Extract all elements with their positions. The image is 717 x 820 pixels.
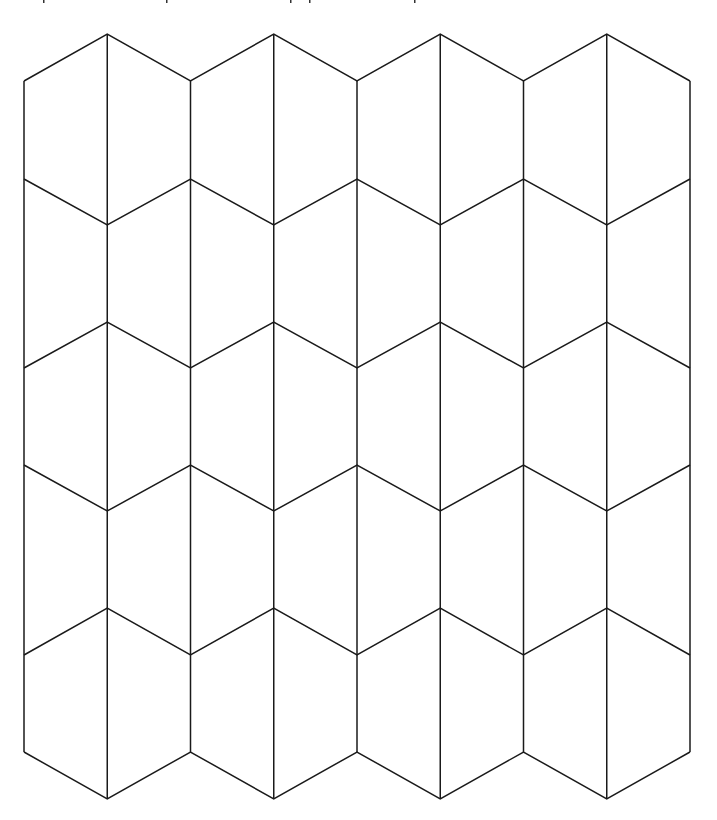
text-fragment-mark-3: [309, 0, 311, 3]
zigzag-row-5: [24, 752, 690, 799]
zigzag-row-0: [24, 34, 690, 81]
text-fragment-mark-2: [290, 0, 292, 3]
text-fragment-mark-0: [43, 0, 45, 3]
vertical-lines: [24, 34, 690, 799]
text-fragment-mark-1: [166, 0, 168, 3]
hexagon-tessellation-pattern: [0, 0, 717, 820]
text-fragment-mark-4: [414, 0, 416, 3]
tessellation-diagram: [0, 0, 717, 820]
top-edge-text-fragments: [43, 0, 416, 3]
